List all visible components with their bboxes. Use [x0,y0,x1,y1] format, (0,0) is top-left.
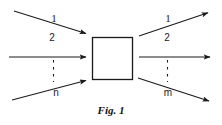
figure-container: 1 2 n 1 2 m Fig. 1 [0,0,222,125]
system-block [93,38,133,80]
input-label-n: n [51,88,61,98]
output-label-1: 1 [163,13,173,23]
input-arrow-n [12,81,86,101]
output-label-m: m [162,88,174,98]
output-label-2: 2 [162,33,172,43]
figure-caption: Fig. 1 [0,104,222,117]
output-arrow-1 [139,13,208,36]
input-label-1: 1 [49,13,59,23]
input-label-2: 2 [47,33,57,43]
